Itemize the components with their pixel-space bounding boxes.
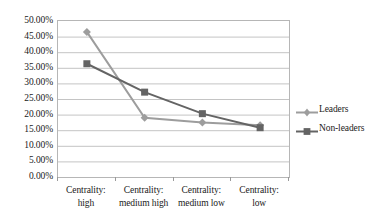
y-axis-tick-label: 35.00%	[1, 62, 53, 72]
series-line	[87, 32, 260, 125]
y-axis-tick-label: 0.00%	[1, 171, 53, 181]
x-label-line-1: Centrality:	[224, 184, 294, 197]
legend-marker-square-icon	[296, 123, 318, 134]
y-axis: 50.00%45.00%40.00%35.00%30.00%25.00%20.0…	[0, 20, 56, 176]
chart-legend: Leaders Non-leaders	[296, 100, 388, 138]
x-axis-tick-mark	[288, 177, 289, 181]
y-axis-tick-label: 15.00%	[1, 124, 53, 134]
y-axis-tick-label: 30.00%	[1, 77, 53, 87]
y-axis-tick-label: 25.00%	[1, 93, 53, 103]
legend-label-leaders: Leaders	[319, 104, 348, 115]
x-axis-tick-mark	[115, 177, 116, 181]
plot-area	[57, 20, 290, 178]
data-point-marker	[257, 124, 264, 131]
x-axis-tick-mark	[230, 177, 231, 181]
data-point-marker	[198, 118, 206, 126]
data-point-marker	[141, 89, 148, 96]
y-axis-tick-label: 45.00%	[1, 31, 53, 41]
legend-marker-diamond-icon	[296, 104, 318, 115]
data-point-marker	[199, 110, 206, 117]
plot-svg	[58, 21, 289, 177]
x-axis-labels: Centrality:highCentrality:medium highCen…	[57, 184, 290, 220]
legend-item-leaders: Leaders	[296, 100, 388, 119]
x-axis-tick-mark	[173, 177, 174, 181]
y-axis-tick-label: 40.00%	[1, 46, 53, 56]
y-axis-tick-label: 50.00%	[1, 15, 53, 25]
x-axis-tick-mark	[57, 177, 58, 181]
x-label-line-2: low	[224, 197, 294, 210]
series-line	[87, 64, 260, 128]
y-axis-tick-label: 20.00%	[1, 109, 53, 119]
series-lines	[87, 32, 260, 128]
series-markers	[83, 28, 264, 131]
x-axis-ticks	[57, 177, 290, 181]
legend-item-non-leaders: Non-leaders	[296, 119, 388, 138]
data-point-marker	[83, 60, 90, 67]
y-axis-tick-label: 10.00%	[1, 140, 53, 150]
x-axis-category-label: Centrality:low	[224, 184, 294, 209]
legend-label-non-leaders: Non-leaders	[319, 123, 364, 134]
gridlines	[58, 37, 289, 162]
y-axis-tick-label: 5.00%	[1, 155, 53, 165]
line-chart: 50.00%45.00%40.00%35.00%30.00%25.00%20.0…	[0, 0, 388, 223]
